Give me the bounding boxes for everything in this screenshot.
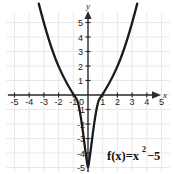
y-tick-label-4: 4 xyxy=(78,33,83,43)
x-tick-label-3: 3 xyxy=(130,97,135,107)
x-tick-label-4: 4 xyxy=(144,97,149,107)
y-axis-label: y xyxy=(85,1,90,11)
x-tick-label--2: -2 xyxy=(55,97,63,107)
y-tick-label-1: 1 xyxy=(78,76,83,86)
x-tick-label--4: -4 xyxy=(25,97,33,107)
y-tick-label-5: 5 xyxy=(78,18,83,28)
x-axis-label: x xyxy=(162,90,167,100)
function-graph-figure: -5 -4 -3 -2 -1 1 2 3 4 5 5 4 3 2 1 -1 -2… xyxy=(0,0,173,174)
y-tick-label--4: -4 xyxy=(77,149,85,159)
formula-exponent: 2 xyxy=(142,145,146,154)
formula-lead: f(x)=x xyxy=(107,149,140,163)
x-tick-label-2: 2 xyxy=(115,97,120,107)
plot-canvas: -5 -4 -3 -2 -1 1 2 3 4 5 5 4 3 2 1 -1 -2… xyxy=(0,0,173,174)
y-tick-label--5: -5 xyxy=(77,163,85,173)
y-tick-label-2: 2 xyxy=(78,62,83,72)
y-tick-label-3: 3 xyxy=(78,47,83,57)
x-tick-label--5: -5 xyxy=(10,97,18,107)
formula-tail: −5 xyxy=(147,149,160,163)
x-tick-label--3: -3 xyxy=(40,97,48,107)
